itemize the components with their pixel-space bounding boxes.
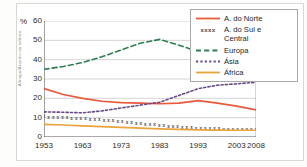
- series-marker: x: [57, 115, 60, 120]
- series-marker: x: [103, 118, 106, 123]
- series-marker: x: [47, 115, 50, 120]
- y-axis-tick-labels: 0102030405060: [18, 21, 42, 137]
- x-axis-tick-labels: 1953196319731983199320032008: [44, 139, 256, 153]
- series-marker: x: [130, 120, 133, 125]
- legend-label: África: [224, 68, 243, 77]
- legend-label: A. do Sul e Central: [224, 25, 261, 43]
- series-marker: x: [158, 123, 161, 128]
- series-marker: x: [144, 122, 147, 127]
- x-tick-label: 2003: [228, 141, 246, 150]
- chart-figure: Almapa/Arquivo da editora % 010203040506…: [0, 0, 307, 167]
- series-marker: x: [163, 123, 166, 128]
- legend-item: Europa: [195, 46, 293, 55]
- series-marker: x: [172, 124, 175, 129]
- series-line: [44, 89, 256, 110]
- y-tick-label: 10: [33, 114, 42, 122]
- series-marker: x: [84, 116, 87, 121]
- series-marker: x: [61, 115, 64, 120]
- legend-label: Ásia: [224, 57, 239, 66]
- series-marker: x: [75, 116, 78, 121]
- series-marker: x: [121, 119, 124, 124]
- x-tick-label: 1953: [35, 141, 53, 150]
- x-tick-label: 1963: [74, 141, 92, 150]
- legend-label: A. do Norte: [224, 14, 262, 23]
- series-marker: x: [126, 120, 129, 125]
- legend-label: Europa: [224, 46, 249, 55]
- series-marker: x: [135, 121, 138, 126]
- y-tick-label: 40: [33, 56, 42, 64]
- legend-item: A. do Norte: [195, 14, 293, 23]
- x-tick-label: 1993: [189, 141, 207, 150]
- series-marker: x: [149, 122, 152, 127]
- legend-swatch: [195, 46, 221, 55]
- chart-legend: A. do NortexxxxA. do Sul e CentralEuropa…: [190, 9, 298, 82]
- y-tick-label: 20: [33, 94, 42, 102]
- x-tick-label: 1973: [112, 141, 130, 150]
- series-marker: x: [112, 118, 115, 123]
- legend-item: Ásia: [195, 57, 293, 66]
- y-tick-label: 30: [33, 75, 42, 83]
- series-marker: x: [98, 117, 101, 122]
- series-marker: x: [66, 115, 69, 120]
- series-marker: x: [80, 116, 83, 121]
- x-tick-label: 2008: [247, 141, 265, 150]
- y-tick-label: 50: [33, 36, 42, 44]
- series-marker: x: [89, 117, 92, 122]
- series-marker: x: [153, 122, 156, 127]
- x-tick-label: 1983: [151, 141, 169, 150]
- legend-swatch: [195, 68, 221, 77]
- series-marker: x: [52, 115, 55, 120]
- series-marker: x: [107, 118, 110, 123]
- legend-item: África: [195, 68, 293, 77]
- y-tick-label: 60: [33, 17, 42, 25]
- legend-swatch: [195, 14, 221, 23]
- legend-swatch: [195, 57, 221, 66]
- series-marker: x: [44, 114, 46, 119]
- legend-x-marker: xxxx: [195, 25, 221, 34]
- legend-item: xxxxA. do Sul e Central: [195, 25, 293, 43]
- series-marker: x: [140, 121, 143, 126]
- series-marker: x: [70, 116, 73, 121]
- series-marker: x: [93, 117, 96, 122]
- series-marker: x: [255, 127, 256, 132]
- series-marker: x: [167, 124, 170, 129]
- y-tick-label: 0: [38, 133, 42, 141]
- series-marker: x: [116, 119, 119, 124]
- legend-swatch: xxxx: [195, 25, 221, 34]
